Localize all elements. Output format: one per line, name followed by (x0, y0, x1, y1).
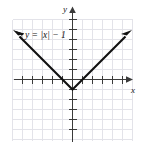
y-axis-arrow (69, 7, 76, 14)
axis-arrowheads (69, 7, 133, 83)
x-axis-arrow (126, 76, 133, 83)
graph-figure: y = |x| − 1 y x (0, 0, 142, 151)
x-axis-label: x (130, 85, 135, 95)
coordinate-plane: y = |x| − 1 y x (0, 0, 142, 151)
y-axis-label: y (62, 4, 67, 14)
equation-label: y = |x| − 1 (24, 30, 66, 40)
